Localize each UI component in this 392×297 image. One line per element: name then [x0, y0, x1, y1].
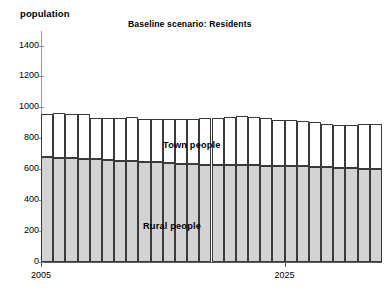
bar-segment-town — [114, 118, 126, 161]
bar-group — [260, 46, 272, 263]
bar-segment-rural — [333, 168, 345, 262]
x-axis-line — [41, 262, 382, 263]
bar-group — [41, 46, 53, 263]
bar-group — [321, 46, 333, 263]
bar-group — [272, 46, 284, 263]
bar-segment-town — [321, 124, 333, 168]
bar-segment-rural — [151, 162, 163, 262]
bar-group — [248, 46, 260, 263]
bar-segment-town — [41, 114, 53, 158]
bar-segment-town — [53, 113, 65, 158]
x-axis-tick-label: 2025 — [265, 270, 305, 280]
y-axis-tick-label: 1200 — [3, 70, 39, 80]
bar-segment-town — [65, 114, 77, 159]
bar-segment-rural — [126, 161, 138, 262]
bar-segment-town — [345, 125, 357, 168]
bar-segment-rural — [321, 167, 333, 262]
bar-segment-town — [151, 119, 163, 162]
bar-group — [285, 46, 297, 263]
population-stacked-bar-chart: population Baseline scenario: Residents … — [0, 0, 392, 297]
bar-segment-town — [309, 122, 321, 167]
y-axis-label: population — [20, 8, 70, 19]
bar-segment-rural — [212, 165, 224, 262]
series-label-rural-people: Rural people — [143, 221, 201, 231]
bar-segment-town — [78, 114, 90, 159]
x-axis-tick-mark — [285, 262, 286, 267]
bar-segment-town — [236, 116, 248, 165]
bar-group — [53, 46, 65, 263]
y-axis-tick-label: 200 — [3, 225, 39, 235]
bar-segment-town — [285, 120, 297, 166]
bar-group — [297, 46, 309, 263]
y-axis-tick-label: 0 — [3, 256, 39, 266]
bar-segment-rural — [138, 162, 150, 262]
bar-segment-rural — [175, 164, 187, 262]
bar-group — [102, 46, 114, 263]
bar-segment-town — [138, 119, 150, 162]
bar-segment-rural — [65, 158, 77, 262]
chart-title: Baseline scenario: Residents — [128, 19, 252, 29]
bar-segment-rural — [309, 167, 321, 262]
bar-segment-town — [248, 117, 260, 165]
bar-group — [126, 46, 138, 263]
bar-segment-rural — [236, 165, 248, 262]
bar-segment-town — [358, 124, 370, 169]
bar-segment-rural — [297, 166, 309, 262]
bar-group — [114, 46, 126, 263]
bar-segment-rural — [358, 169, 370, 262]
bar-segment-town — [260, 118, 272, 165]
bar-segment-rural — [90, 159, 102, 262]
y-axis-tick-label: 400 — [3, 194, 39, 204]
bar-group — [333, 46, 345, 263]
bar-group — [78, 46, 90, 263]
bar-segment-rural — [272, 166, 284, 262]
bar-group — [236, 46, 248, 263]
bar-segment-town — [126, 117, 138, 162]
bar-segment-rural — [163, 163, 175, 262]
bar-segment-town — [224, 117, 236, 165]
bar-segment-rural — [370, 169, 382, 262]
series-label-town-people: Town people — [163, 140, 221, 150]
y-axis-tick-label: 800 — [3, 132, 39, 142]
bar-segment-rural — [248, 165, 260, 262]
bar-segment-rural — [41, 157, 53, 262]
bar-group — [65, 46, 77, 263]
bar-group — [224, 46, 236, 263]
bar-group — [199, 46, 211, 263]
bar-segment-rural — [78, 159, 90, 262]
y-axis-tick-label: 1400 — [3, 40, 39, 50]
bar-group — [345, 46, 357, 263]
bar-segment-rural — [187, 164, 199, 262]
bar-segment-town — [333, 125, 345, 168]
bar-segment-rural — [199, 165, 211, 262]
bar-segment-rural — [102, 160, 114, 262]
x-axis-tick-mark — [41, 262, 42, 267]
x-axis-tick-label: 2005 — [21, 270, 61, 280]
bar-segment-rural — [114, 161, 126, 262]
bar-segment-town — [90, 118, 102, 159]
bar-segment-rural — [53, 158, 65, 262]
y-axis-tick-label: 1000 — [3, 101, 39, 111]
bar-group — [90, 46, 102, 263]
bar-segment-town — [297, 121, 309, 167]
bar-segment-town — [370, 124, 382, 169]
bar-segment-town — [102, 118, 114, 160]
bar-segment-town — [272, 120, 284, 166]
bar-segment-rural — [285, 166, 297, 262]
bar-group — [370, 46, 382, 263]
bar-group — [309, 46, 321, 263]
bar-segment-rural — [345, 168, 357, 262]
bar-group — [358, 46, 370, 263]
bar-segment-rural — [260, 166, 272, 262]
y-axis-tick-label: 600 — [3, 163, 39, 173]
bar-segment-rural — [224, 165, 236, 262]
bar-group — [212, 46, 224, 263]
